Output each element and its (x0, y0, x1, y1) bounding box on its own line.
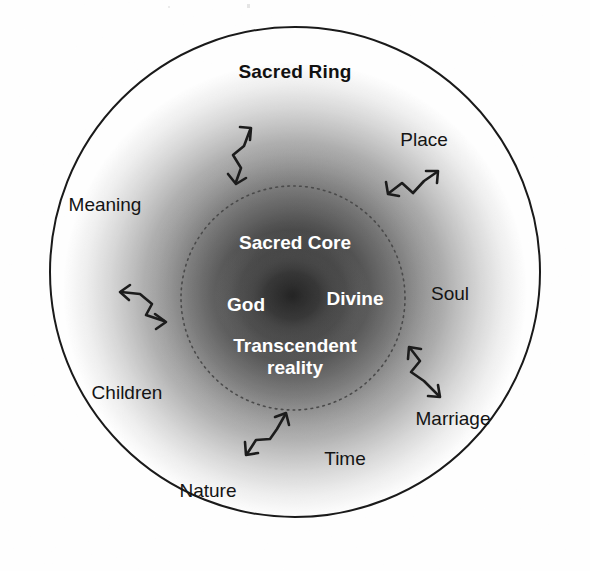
core-term-god: God (227, 295, 265, 316)
scan-speck (168, 6, 170, 8)
ring-label-time: Time (324, 449, 366, 470)
scan-speck (247, 4, 250, 8)
sacred-core-title: Sacred Core (239, 233, 351, 254)
core-term-transcendent: Transcendent (233, 336, 357, 357)
ring-label-children: Children (92, 383, 163, 404)
ring-label-soul: Soul (431, 284, 469, 305)
ring-label-marriage: Marriage (416, 409, 491, 430)
paper-grain-overlay (0, 0, 590, 571)
ring-label-meaning: Meaning (69, 195, 142, 216)
core-term-divine: Divine (326, 289, 383, 310)
ring-label-place: Place (400, 130, 448, 151)
ring-label-nature: Nature (179, 481, 236, 502)
core-term-reality: reality (267, 358, 323, 379)
diagram-canvas (0, 0, 590, 571)
sacred-ring-title: Sacred Ring (238, 62, 351, 83)
sacred-core-ring-diagram: Sacred Ring Sacred Core God Divine Trans… (0, 0, 590, 571)
